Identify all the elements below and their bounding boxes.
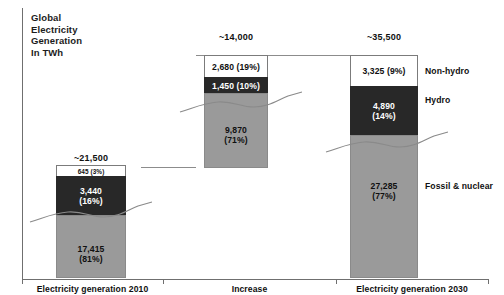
bar-2030: 3,325 (9%) 4,890 (14%) 27,285 (77%) xyxy=(350,55,418,279)
segment-non-hydro-increase: 2,680 (19%) xyxy=(204,55,268,78)
segment-fossil-nuclear-2030: 27,285 (77%) xyxy=(350,135,418,278)
connector-line-3 xyxy=(268,55,350,56)
category-label-2030: Electricity generation 2030 xyxy=(336,284,488,294)
bar-2010: 645 (3%) 3,440 (16%) 17,415 (81%) xyxy=(56,165,126,279)
legend-item-non-hydro: Non-hydro xyxy=(425,66,469,76)
connector-line-2 xyxy=(196,55,204,56)
legend-item-fossil-nuclear: Fossil & nuclear xyxy=(425,181,493,191)
x-axis-tick xyxy=(488,279,489,284)
bar-increase: 2,680 (19%) 1,450 (10%) 9,870 (71%) xyxy=(204,55,268,170)
category-label-2010: Electricity generation 2010 xyxy=(22,284,163,294)
bar-total-2030: ~35,500 xyxy=(350,32,418,42)
segment-label: 9,870 (71%) xyxy=(224,125,247,145)
y-axis xyxy=(22,8,23,280)
connector-line-1 xyxy=(141,167,196,168)
segment-label: 17,415 (81%) xyxy=(78,244,105,264)
segment-label: 645 (3%) xyxy=(78,168,105,175)
x-axis xyxy=(22,279,488,280)
segment-label: 27,285 (77%) xyxy=(371,181,398,201)
segment-label: 3,440 (16%) xyxy=(79,186,102,206)
segment-label: 2,680 (19%) xyxy=(212,62,260,72)
legend-item-hydro: Hydro xyxy=(425,95,450,105)
segment-non-hydro-2030: 3,325 (9%) xyxy=(350,55,418,87)
chart-title: Global Electricity Generation In TWh xyxy=(31,12,82,58)
segment-label: 4,890 (14%) xyxy=(372,101,395,121)
chart-container: Global Electricity Generation In TWh ~21… xyxy=(0,0,504,295)
segment-label: 1,450 (10%) xyxy=(212,81,260,91)
bar-total-2010: ~21,500 xyxy=(36,153,146,163)
bar-total-increase: ~14,000 xyxy=(204,32,268,42)
segment-fossil-nuclear-increase: 9,870 (71%) xyxy=(204,93,268,168)
segment-fossil-nuclear-2010: 17,415 (81%) xyxy=(56,215,126,278)
category-label-increase: Increase xyxy=(163,284,336,294)
segment-hydro-2010: 3,440 (16%) xyxy=(56,176,126,216)
segment-hydro-2030: 4,890 (14%) xyxy=(350,86,418,136)
segment-label: 3,325 (9%) xyxy=(362,66,405,76)
segment-hydro-increase: 1,450 (10%) xyxy=(204,77,268,94)
